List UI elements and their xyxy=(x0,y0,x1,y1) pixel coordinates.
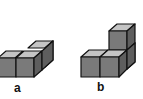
figure-a-cubes xyxy=(0,41,53,77)
cube-a2-front xyxy=(16,58,34,77)
cube-b2-front xyxy=(100,57,119,77)
cube-b-top-front xyxy=(109,31,127,50)
figure-a-label: a xyxy=(14,82,21,94)
figure-b-label: b xyxy=(97,81,104,93)
cube-b1-front xyxy=(81,57,100,77)
cube-a1-front xyxy=(0,58,16,77)
cube-diagram xyxy=(0,0,143,99)
figure-b-cubes xyxy=(81,24,135,77)
